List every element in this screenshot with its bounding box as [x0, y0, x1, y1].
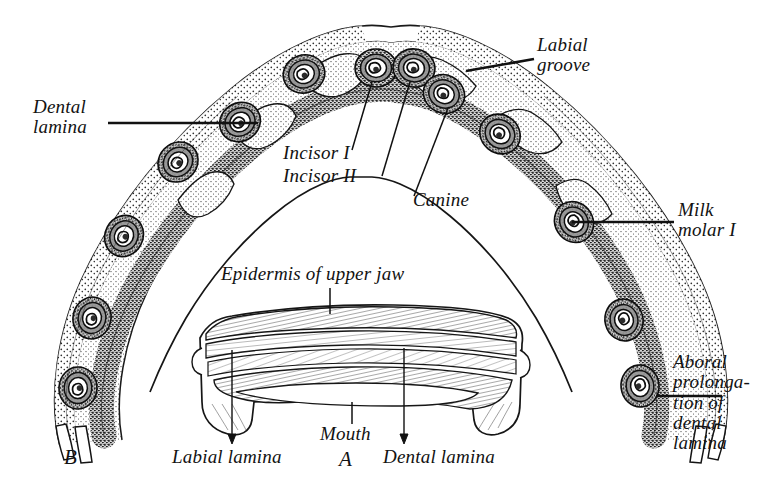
label-labial-lamina-bottom: Labial lamina — [172, 447, 282, 467]
label-dental-lamina-bottom: Dental lamina — [383, 447, 495, 467]
label-epidermis-upper-jaw: Epidermis of upper jaw — [221, 264, 404, 284]
label-aboral-prolongation: Aboral prolonga- tion of dental lamina — [673, 352, 750, 454]
panel-letter-a: A — [339, 447, 352, 472]
label-incisor-2: Incisor II — [283, 166, 356, 186]
label-labial-groove: Labial groove — [537, 35, 590, 76]
anatomical-drawing — [0, 0, 782, 479]
label-milk-molar-1: Milk molar I — [678, 200, 736, 241]
label-mouth: Mouth — [320, 424, 371, 444]
label-incisor-1: Incisor I — [283, 143, 350, 163]
figure-plate: Dental lamina Labial groove Incisor I In… — [0, 0, 782, 479]
label-dental-lamina-left: Dental lamina — [33, 97, 87, 138]
label-canine: Canine — [413, 190, 469, 210]
panel-letter-b: B — [64, 445, 77, 470]
